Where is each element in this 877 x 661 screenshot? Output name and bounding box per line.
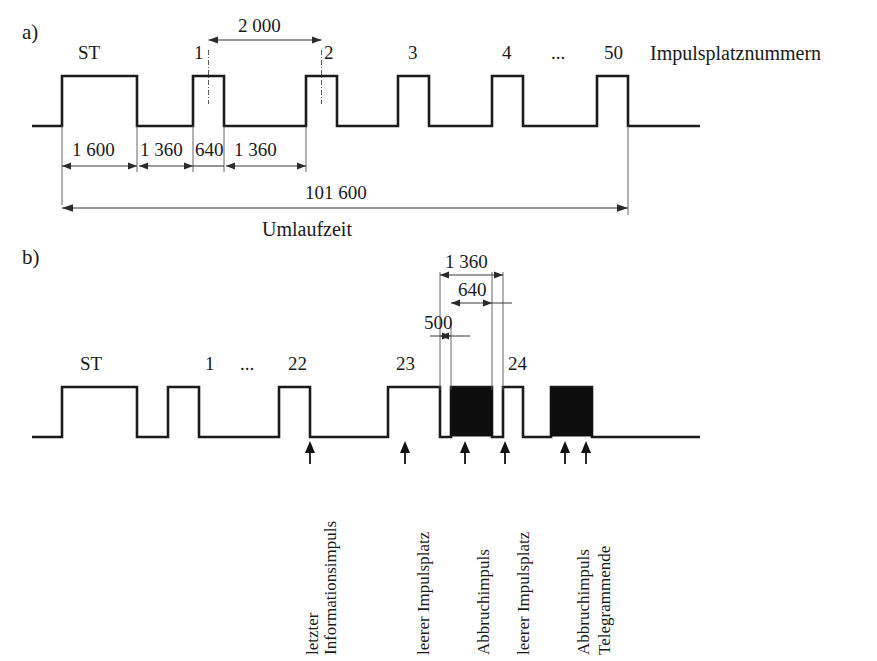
dimension-2000-label: 2 000 — [238, 16, 281, 35]
panel-a-waveform — [32, 76, 700, 126]
umlaufzeit-caption: Umlaufzeit — [262, 219, 352, 239]
panel-b-slot-23: 23 — [396, 354, 415, 373]
callout-label-leerer-impulsplatz-1: leerer Impulsplatz — [415, 532, 432, 655]
panel-b-callout-arrows — [305, 441, 591, 464]
dimension-1360a-label: 1 360 — [140, 140, 183, 159]
dimension-1360-panelb-label: 1 360 — [445, 252, 488, 271]
panel-a-slot-3: 3 — [408, 43, 418, 62]
panel-a-slot-st: ST — [78, 43, 100, 62]
callout-arrow-telegrammende — [581, 441, 591, 464]
panel-b-letter: b) — [22, 247, 40, 268]
panel-b-slot-24: 24 — [508, 354, 527, 373]
panel-b-waveform — [32, 387, 700, 437]
panel-b-slot-22: 22 — [288, 354, 307, 373]
panel-b-slot-st: ST — [80, 354, 102, 373]
panel-b-slot-1: 1 — [205, 354, 215, 373]
callout-arrow-leerer-impulsplatz-2 — [500, 441, 510, 464]
callout-arrow-abbruchimpuls-1 — [460, 441, 470, 464]
callout-label-leerer-impulsplatz-2: leerer Impulsplatz — [515, 532, 532, 655]
dimension-1360b-label: 1 360 — [234, 140, 277, 159]
panel-a-slot-1: 1 — [194, 43, 204, 62]
callout-arrow-abbruchimpuls-2 — [560, 441, 570, 464]
dimension-500-b-panel — [430, 333, 470, 340]
dimension-101600-label: 101 600 — [305, 183, 367, 202]
panel-a-letter: a) — [22, 22, 38, 43]
callout-label-telegrammende: Telegrammende — [596, 546, 613, 655]
abbruchimpuls-pulse-1 — [451, 388, 492, 436]
dimension-640-panelb-label: 640 — [458, 280, 487, 299]
callout-arrow-leerer-impulsplatz-1 — [400, 441, 410, 464]
panel-a-slot-4: 4 — [502, 43, 512, 62]
callout-label-abbruchimpuls-2: Abbruchimpuls — [575, 549, 592, 655]
abbruchimpuls-pulse-2 — [551, 388, 592, 436]
callout-arrow-letzter-informationsimpuls — [305, 441, 315, 464]
callout-label-informationsimpuls: Informationsimpuls — [322, 521, 339, 655]
panel-b-filled-pulses — [451, 388, 592, 436]
dimension-1600-label: 1 600 — [72, 140, 115, 159]
dimension-640a-label: 640 — [195, 140, 224, 159]
callout-label-abbruchimpuls-1: Abbruchimpuls — [475, 549, 492, 655]
figure-root: a) ST 1 2 3 4 ... 50 Impulsplatznummern … — [0, 0, 877, 661]
panel-a-axis-caption: Impulsplatznummern — [650, 43, 821, 63]
dimension-1600 — [62, 163, 137, 170]
panel-a-slot-ellipsis: ... — [551, 43, 565, 62]
dimension-101600 — [62, 204, 628, 212]
dimension-1360-b — [226, 163, 306, 170]
callout-label-letzter: letzter — [304, 613, 321, 655]
panel-b-slot-ellipsis: ... — [240, 354, 254, 373]
panel-a-slot-2: 2 — [324, 43, 334, 62]
dimension-1360-b-panel — [440, 272, 503, 279]
panel-a-centerlines — [209, 50, 322, 104]
dimension-2000 — [209, 36, 322, 43]
dimension-1360-a — [139, 163, 193, 170]
panel-a-slot-50: 50 — [604, 43, 623, 62]
dimension-500-panelb-label: 500 — [424, 313, 453, 332]
